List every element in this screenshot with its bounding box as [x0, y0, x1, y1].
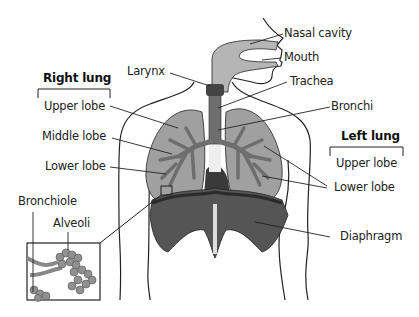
left-lung-title: Left lung [341, 130, 400, 142]
alveoli-label: Alveoli [53, 218, 90, 230]
bronchi-label: Bronchi [331, 101, 373, 113]
right-lower-lobe-label: Lower lobe [45, 161, 106, 173]
diaphragm [150, 188, 288, 258]
diaphragm-label: Diaphragm [340, 231, 402, 243]
trachea [209, 92, 221, 144]
right-upper-lobe-label: Upper lobe [44, 101, 105, 113]
bronchiole-label: Bronchiole [18, 196, 77, 208]
right-lung-title: Right lung [43, 72, 111, 84]
nasal-cavity-label: Nasal cavity [284, 28, 352, 40]
right-middle-lobe-label: Middle lobe [42, 131, 106, 143]
alveoli-inset [27, 243, 100, 302]
left-lung-bracket [330, 147, 403, 156]
trachea-label: Trachea [290, 76, 333, 88]
mouth-label: Mouth [284, 52, 319, 64]
left-upper-lobe-label: Upper lobe [336, 158, 397, 170]
larynx-label: Larynx [127, 66, 165, 78]
mediastinum [209, 142, 221, 172]
right-lung-bracket [38, 89, 110, 98]
left-lower-lobe-label: Lower lobe [334, 182, 395, 194]
